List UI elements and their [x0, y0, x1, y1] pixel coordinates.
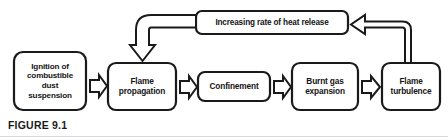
page-divider-rule	[0, 136, 448, 137]
figure-caption: FIGURE 9.1	[8, 119, 67, 131]
arrow-heat-release-to-flame-propagation	[130, 15, 196, 61]
node-box-flame-propagation	[108, 63, 176, 110]
node-box-burnt-gas-expansion	[292, 63, 358, 110]
arrow-flame-propagation-to-confinement	[180, 76, 197, 98]
arrow-confinement-to-burnt-gas-expansion	[274, 76, 291, 98]
node-box-heat-release	[196, 11, 348, 34]
figure-container: Ignition of combustible dust suspension …	[0, 0, 448, 140]
flow-diagram-canvas	[0, 0, 448, 140]
node-box-ignition	[14, 52, 86, 110]
node-box-confinement	[198, 72, 270, 101]
arrow-ignition-to-flame-propagation	[90, 75, 107, 97]
arrow-flame-turbulence-to-heat-release	[351, 15, 411, 63]
node-box-flame-turbulence	[382, 63, 440, 110]
arrow-burnt-gas-expansion-to-flame-turbulence	[362, 76, 380, 98]
